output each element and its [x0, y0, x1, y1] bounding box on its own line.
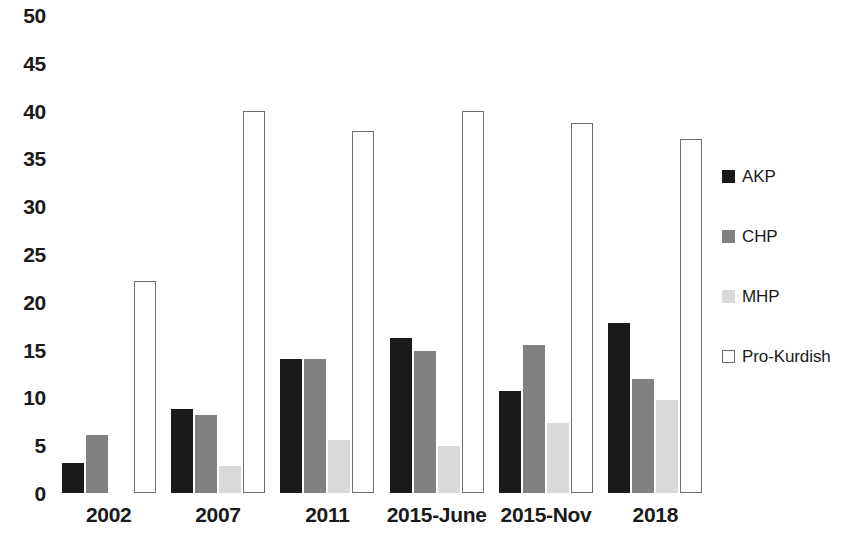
x-tick-label: 2018: [633, 504, 679, 525]
y-tick-label: 35: [0, 148, 46, 169]
bar-chp-2018: [632, 379, 654, 493]
bar-mhp-2015-nov: [547, 423, 569, 493]
bar-pro-kurdish-2015-june: [462, 111, 484, 493]
legend-swatch-icon: [722, 230, 735, 243]
x-tick-label: 2002: [86, 504, 132, 525]
bar-akp-2018: [608, 323, 630, 493]
bar-akp-2015-nov: [499, 391, 521, 493]
legend-swatch-icon: [722, 350, 735, 363]
bar-pro-kurdish-2011: [352, 131, 374, 493]
legend-item-pro-kurdish[interactable]: Pro-Kurdish: [722, 348, 831, 365]
legend-label: AKP: [742, 168, 776, 185]
bar-group: [382, 15, 491, 493]
bar-pro-kurdish-2007: [243, 111, 265, 493]
bar-chart: 05101520253035404550 2002200720112015-Ju…: [0, 0, 849, 542]
x-tick-label: 2011: [305, 504, 349, 525]
y-tick-label: 10: [0, 387, 46, 408]
x-tick-label: 2015-June: [387, 504, 487, 525]
bar-chp-2011: [304, 359, 326, 493]
bar-chp-2007: [195, 415, 217, 493]
y-tick-label: 20: [0, 291, 46, 312]
y-tick-label: 5: [0, 435, 46, 456]
bar-pro-kurdish-2002: [134, 281, 156, 493]
bar-akp-2007: [171, 409, 193, 493]
bar-chp-2015-nov: [523, 345, 545, 493]
y-tick-label: 50: [0, 5, 46, 26]
bar-chp-2015-june: [414, 351, 436, 493]
bar-group: [601, 15, 710, 493]
bar-pro-kurdish-2018: [680, 139, 702, 493]
legend-label: Pro-Kurdish: [742, 348, 831, 365]
bar-akp-2002: [62, 463, 84, 493]
bar-akp-2015-june: [390, 338, 412, 493]
bar-mhp-2007: [219, 466, 241, 493]
legend-item-chp[interactable]: CHP: [722, 228, 778, 245]
bar-mhp-2015-june: [438, 446, 460, 493]
bar-mhp-2011: [328, 440, 350, 493]
legend-item-akp[interactable]: AKP: [722, 168, 776, 185]
legend-label: MHP: [742, 288, 779, 305]
y-tick-label: 25: [0, 244, 46, 265]
y-tick-label: 30: [0, 196, 46, 217]
bar-group: [54, 15, 163, 493]
bar-group: [163, 15, 272, 493]
legend-item-mhp[interactable]: MHP: [722, 288, 779, 305]
bar-akp-2011: [280, 359, 302, 493]
bar-group: [273, 15, 382, 493]
y-axis: 05101520253035404550: [0, 0, 46, 542]
y-tick-label: 15: [0, 339, 46, 360]
y-tick-label: 45: [0, 52, 46, 73]
bar-pro-kurdish-2015-nov: [571, 123, 593, 493]
legend-label: CHP: [742, 228, 778, 245]
x-axis: 2002200720112015-June2015-Nov2018: [54, 500, 710, 542]
legend-swatch-icon: [722, 290, 735, 303]
legend-swatch-icon: [722, 170, 735, 183]
bar-group: [491, 15, 600, 493]
y-tick-label: 0: [0, 483, 46, 504]
plot-area: [54, 15, 710, 493]
x-tick-label: 2015-Nov: [501, 504, 592, 525]
bar-mhp-2018: [656, 400, 678, 493]
bar-chp-2002: [86, 435, 108, 493]
y-tick-label: 40: [0, 100, 46, 121]
x-tick-label: 2007: [195, 504, 241, 525]
